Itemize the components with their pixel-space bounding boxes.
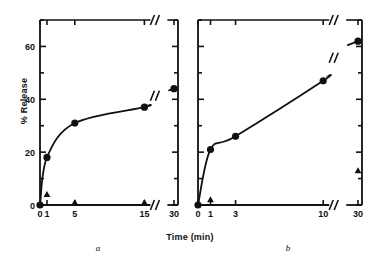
- x-tick-label: 1: [208, 209, 213, 219]
- x-tick-label: 0: [195, 209, 200, 219]
- data-point-circle[interactable]: [71, 119, 78, 126]
- x-axis-break-symbol: [150, 200, 159, 210]
- top-frame-break-symbol: [329, 15, 338, 25]
- chart-canvas: 020406001515300131030: [0, 0, 379, 262]
- data-point-triangle[interactable]: [207, 196, 214, 202]
- data-point-triangle[interactable]: [355, 167, 362, 173]
- data-point-circle[interactable]: [36, 201, 43, 208]
- y-tick-label: 60: [25, 42, 35, 52]
- data-point-circle[interactable]: [232, 133, 239, 140]
- data-point-circle[interactable]: [320, 77, 327, 84]
- data-point-circle[interactable]: [170, 85, 177, 92]
- x-tick-label: 3: [233, 209, 238, 219]
- panel-b-label: b: [278, 243, 298, 253]
- x-axis-title: Time (min): [140, 232, 240, 242]
- data-point-triangle[interactable]: [44, 191, 51, 197]
- data-point-circle[interactable]: [194, 201, 201, 208]
- data-point-circle[interactable]: [354, 38, 361, 45]
- data-curve: [198, 75, 331, 205]
- data-curve: [40, 105, 151, 205]
- x-tick-label: 30: [353, 209, 363, 219]
- curve-break-symbol: [150, 91, 159, 101]
- x-tick-label: 10: [318, 209, 328, 219]
- panel-a-label: a: [88, 243, 108, 253]
- x-tick-label: 5: [72, 209, 77, 219]
- x-tick-label: 0: [37, 209, 42, 219]
- x-tick-label: 30: [169, 209, 179, 219]
- data-point-triangle[interactable]: [141, 199, 148, 205]
- x-tick-label: 1: [44, 209, 49, 219]
- data-point-triangle[interactable]: [71, 199, 78, 205]
- data-point-circle[interactable]: [207, 146, 214, 153]
- y-axis-title: % Release: [19, 61, 29, 141]
- top-frame-break-symbol: [150, 15, 159, 25]
- curve-break-symbol: [329, 53, 338, 63]
- y-tick-label: 0: [30, 201, 35, 211]
- figure-root: % Release Time (min) a b 020406001515300…: [0, 0, 379, 262]
- x-tick-label: 15: [139, 209, 149, 219]
- y-tick-label: 20: [25, 148, 35, 158]
- data-point-circle[interactable]: [43, 154, 50, 161]
- data-point-circle[interactable]: [141, 104, 148, 111]
- x-axis-break-symbol: [329, 200, 338, 210]
